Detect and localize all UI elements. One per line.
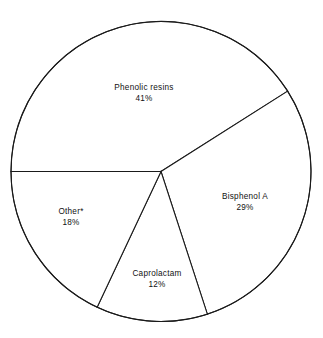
pie-label-name-phenolic-resins: Phenolic resins <box>114 83 173 94</box>
pie-chart: Phenolic resins 41% Bisphenol A 29% Capr… <box>0 0 323 338</box>
pie-label-caprolactam: Caprolactam 12% <box>132 269 181 290</box>
pie-label-value-bisphenol-a: 29% <box>222 203 268 214</box>
pie-label-other: Other* 18% <box>58 207 83 228</box>
pie-label-name-bisphenol-a: Bisphenol A <box>222 192 268 203</box>
pie-label-bisphenol-a: Bisphenol A 29% <box>222 192 268 213</box>
pie-label-name-caprolactam: Caprolactam <box>132 269 181 280</box>
pie-label-value-caprolactam: 12% <box>132 280 181 291</box>
pie-label-name-other: Other* <box>58 207 83 218</box>
pie-label-phenolic-resins: Phenolic resins 41% <box>114 83 173 104</box>
pie-label-value-phenolic-resins: 41% <box>114 94 173 105</box>
pie-label-value-other: 18% <box>58 218 83 229</box>
